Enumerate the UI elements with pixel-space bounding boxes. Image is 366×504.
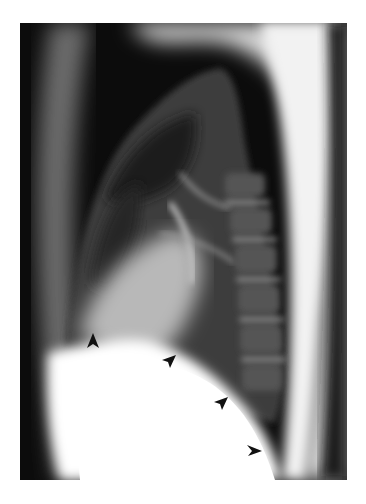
- xray-graphic: [20, 23, 347, 480]
- xray-image: [20, 23, 347, 480]
